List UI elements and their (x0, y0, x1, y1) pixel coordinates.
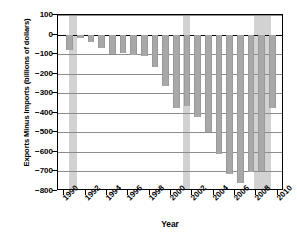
y-tick-mark (52, 190, 57, 191)
bar (141, 35, 148, 56)
y-tick-mark (52, 14, 57, 15)
y-tick-mark (52, 131, 57, 132)
y-tick-mark (52, 92, 57, 93)
bar (109, 35, 116, 54)
bar (77, 35, 84, 39)
bar (269, 35, 276, 108)
y-tick-label: −100 (19, 49, 53, 58)
bar (248, 35, 255, 172)
bar (237, 35, 244, 184)
y-tick-label: −600 (19, 146, 53, 155)
bar (152, 35, 159, 67)
bar (194, 35, 201, 118)
y-tick-label: 100 (19, 10, 53, 19)
y-tick-label: −300 (19, 88, 53, 97)
bar (205, 35, 212, 133)
y-tick-mark (52, 151, 57, 152)
bar (98, 35, 105, 49)
bar (120, 35, 127, 54)
trade-balance-bar-chart: Exports Minus Imports (billions of dolla… (0, 0, 297, 236)
bar (173, 35, 180, 109)
y-tick-mark (52, 170, 57, 171)
bar (216, 35, 223, 154)
y-tick-label: −400 (19, 107, 53, 116)
bar (226, 35, 233, 175)
y-tick-label: −700 (19, 166, 53, 175)
y-tick-mark (52, 73, 57, 74)
bar (66, 35, 73, 51)
bar (162, 35, 169, 86)
y-tick-label: −200 (19, 68, 53, 77)
y-axis-tick-labels: 1000−100−200−300−400−500−600−700−800 (17, 0, 53, 236)
bar (130, 35, 137, 55)
y-tick-mark (52, 112, 57, 113)
plot-area (57, 14, 283, 190)
bar (258, 35, 265, 171)
y-tick-mark (52, 53, 57, 54)
x-axis-title: Year (57, 219, 283, 229)
y-tick-mark (52, 34, 57, 35)
bar (184, 35, 191, 106)
y-tick-label: −800 (19, 186, 53, 195)
y-tick-label: −500 (19, 127, 53, 136)
bar (88, 35, 95, 43)
gridline (58, 15, 282, 16)
y-tick-label: 0 (19, 29, 53, 38)
